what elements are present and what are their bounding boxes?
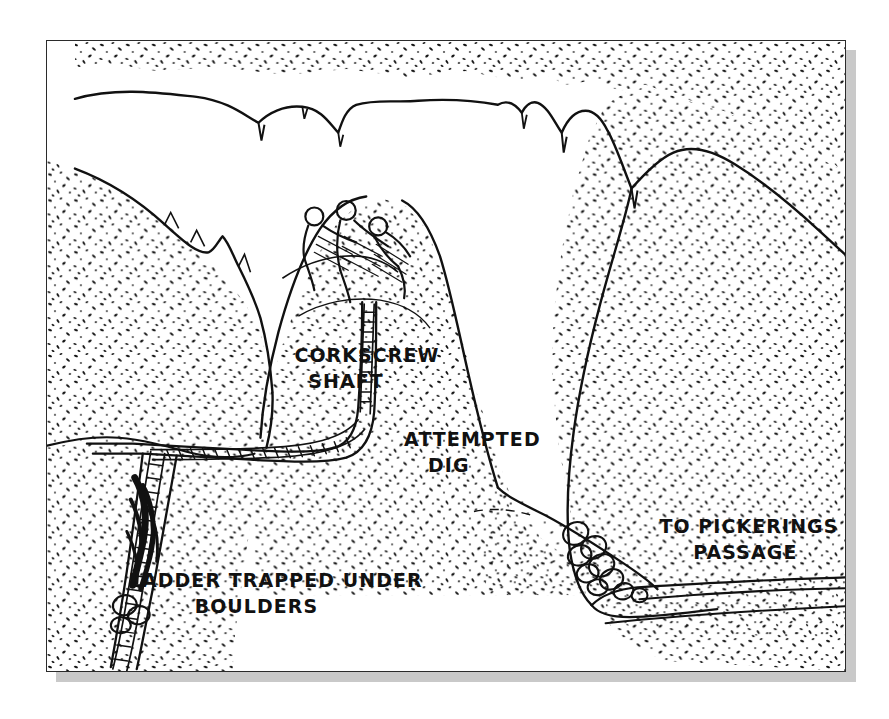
label-ladder-line2: BOULDERS [195, 595, 319, 617]
label-attempted-dig-line1: ATTEMPTED [404, 428, 541, 450]
figure-container: CORKSCREW SHAFT ATTEMPTED DIG TO PICKERI… [0, 0, 889, 719]
label-corkscrew-shaft-line2: SHAFT [308, 370, 384, 392]
label-pickerings-line1: TO PICKERINGS [659, 515, 838, 537]
label-ladder-line1: LADDER TRAPPED UNDER [129, 569, 423, 591]
label-pickerings-line2: PASSAGE [693, 541, 797, 563]
label-attempted-dig-line2: DIG [428, 454, 470, 476]
label-corkscrew-shaft-line1: CORKSCREW [294, 344, 439, 366]
cave-cross-section-drawing: CORKSCREW SHAFT ATTEMPTED DIG TO PICKERI… [47, 41, 845, 671]
framed-illustration-plate: CORKSCREW SHAFT ATTEMPTED DIG TO PICKERI… [46, 40, 846, 672]
